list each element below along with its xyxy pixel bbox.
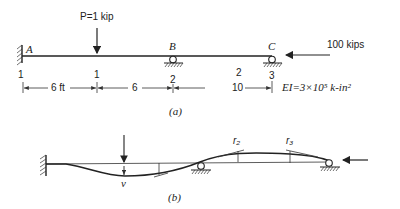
node-number: 1: [18, 69, 24, 80]
stiffness-label: EI=3×10⁵ k-in²: [281, 81, 351, 93]
displacement-label: v: [121, 177, 126, 189]
figure-a: A B C P=1 kip: [17, 11, 364, 118]
node-number: 3: [269, 70, 275, 81]
roller-support-b: [164, 56, 183, 67]
dimension-label: 6: [132, 82, 138, 93]
fixed-support: [40, 155, 46, 176]
dimension-line: 6 ft 6 10: [23, 81, 272, 93]
roller-support-c: [263, 56, 282, 67]
axial-load-label: 100 kips: [327, 39, 364, 50]
roller-support-c: [320, 160, 340, 171]
figure-caption-b: (b): [168, 191, 181, 204]
point-label-b: B: [169, 40, 176, 52]
rotation-label-r2: r₂: [233, 135, 240, 146]
axial-load: 100 kips: [286, 39, 364, 55]
fixed-support-a: [17, 45, 22, 65]
rotation-label-r3: r₃: [286, 135, 293, 146]
figure-caption-a: (a): [169, 105, 182, 118]
dimension-label: 10: [232, 82, 244, 93]
undeformed-axis: [46, 162, 330, 164]
node-number: 2: [170, 74, 176, 85]
deflected-shape: [46, 153, 330, 176]
node-number: 1: [94, 69, 100, 80]
beam-diagram: A B C P=1 kip: [0, 0, 400, 209]
point-load: P=1 kip: [80, 11, 114, 53]
load-label: P=1 kip: [80, 11, 114, 22]
dimension-label: 6 ft: [51, 82, 65, 93]
point-label-a: A: [25, 43, 33, 55]
point-label-c: C: [268, 40, 276, 52]
figure-b: v r₂ r₃: [40, 135, 368, 204]
element-label: 2: [236, 67, 242, 78]
